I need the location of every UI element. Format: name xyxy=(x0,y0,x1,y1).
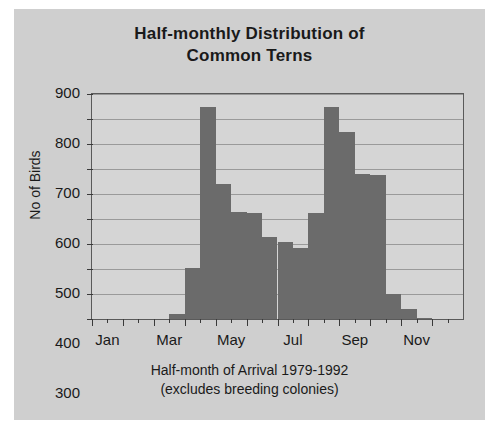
x-axis-tick xyxy=(339,319,340,326)
bar xyxy=(262,237,277,320)
y-axis-tick-label: 700 xyxy=(34,184,80,201)
bar xyxy=(370,175,385,319)
bar xyxy=(185,268,200,319)
bar-series xyxy=(92,94,463,319)
chart-title-line-2: Common Terns xyxy=(14,45,485,67)
bar xyxy=(216,184,231,319)
y-axis-tick-label: 500 xyxy=(34,284,80,301)
bar xyxy=(231,212,246,320)
x-axis-tick xyxy=(154,319,155,326)
x-axis-tick-label: Jan xyxy=(95,331,119,348)
x-axis-tick-label: Nov xyxy=(403,331,430,348)
x-axis-minor-tick xyxy=(169,319,170,323)
y-axis-tick-label: 600 xyxy=(34,234,80,251)
bar xyxy=(247,213,262,319)
y-axis-tick-label: 400 xyxy=(34,334,80,351)
x-axis-minor-tick xyxy=(107,319,108,323)
chart-panel: Half-monthly Distribution of Common Tern… xyxy=(14,9,485,420)
x-axis-tick xyxy=(308,319,309,326)
chart-title-line-1: Half-monthly Distribution of xyxy=(134,24,364,43)
x-axis-title-line-1: Half-month of Arrival 1979-1992 xyxy=(14,361,485,380)
bar xyxy=(401,309,416,319)
x-axis-title: Half-month of Arrival 1979-1992 (exclude… xyxy=(14,361,485,399)
x-axis-minor-tick xyxy=(355,319,356,323)
bar xyxy=(339,132,354,320)
bar xyxy=(293,248,308,319)
y-axis-tick-label: 800 xyxy=(34,134,80,151)
plot-area: 0100200300400500600700800900 JanMarMayJu… xyxy=(91,93,464,320)
y-axis-tick-label: 900 xyxy=(34,84,80,101)
x-axis-minor-tick xyxy=(324,319,325,323)
bar xyxy=(417,318,432,319)
x-axis-tick xyxy=(216,319,217,326)
bar xyxy=(308,213,323,319)
x-axis-title-line-2: (excludes breeding colonies) xyxy=(14,380,485,399)
x-axis-minor-tick xyxy=(386,319,387,323)
x-axis-tick xyxy=(370,319,371,326)
chart-title: Half-monthly Distribution of Common Tern… xyxy=(14,23,485,67)
x-axis-tick-label: Sep xyxy=(341,331,368,348)
bar xyxy=(386,294,401,319)
x-axis-minor-tick xyxy=(200,319,201,323)
x-axis-minor-tick xyxy=(293,319,294,323)
x-axis-tick-label: Jul xyxy=(283,331,302,348)
x-axis-minor-tick xyxy=(417,319,418,323)
x-axis-tick xyxy=(185,319,186,326)
bar xyxy=(200,107,215,320)
bar xyxy=(355,174,370,319)
bar xyxy=(324,107,339,320)
x-axis-tick xyxy=(123,319,124,326)
x-axis-tick xyxy=(247,319,248,326)
x-axis-minor-tick xyxy=(231,319,232,323)
x-axis-tick xyxy=(401,319,402,326)
x-axis-minor-tick xyxy=(262,319,263,323)
x-axis-tick xyxy=(278,319,279,326)
x-axis-tick-label: May xyxy=(217,331,245,348)
x-axis-tick xyxy=(92,319,93,326)
x-axis-minor-tick xyxy=(138,319,139,323)
x-axis-minor-tick xyxy=(448,319,449,323)
x-axis-tick-label: Mar xyxy=(156,331,182,348)
x-axis-tick xyxy=(432,319,433,326)
bar xyxy=(169,314,184,319)
bar xyxy=(278,242,293,320)
